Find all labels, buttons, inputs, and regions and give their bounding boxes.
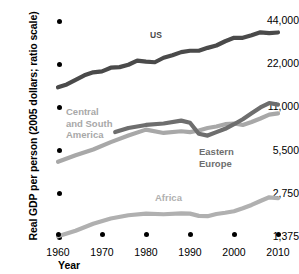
x-tick-label: 1970 xyxy=(82,246,122,258)
gdp-per-person-chart: Real GDP per person (2005 dollars; ratio… xyxy=(0,0,299,274)
x-tick-dot xyxy=(232,232,237,237)
series-label-eastern-europe: Eastern Europe xyxy=(199,146,234,169)
x-tick-dot xyxy=(188,232,193,237)
series-label-central-and-south-america: Central and South America xyxy=(66,106,112,141)
x-tick-label: 1990 xyxy=(170,246,210,258)
x-tick-label: 1960 xyxy=(38,246,78,258)
x-tick-dot xyxy=(276,232,281,237)
x-axis-title: Year xyxy=(58,259,80,271)
series-label-africa: Africa xyxy=(155,192,182,204)
series-label-us: US xyxy=(150,30,162,42)
x-tick-dot xyxy=(56,232,61,237)
x-tick-dot xyxy=(100,232,105,237)
x-tick-label: 1980 xyxy=(126,246,166,258)
x-tick-label: 2010 xyxy=(258,246,298,258)
x-tick-dot xyxy=(144,232,149,237)
x-tick-label: 2000 xyxy=(214,246,254,258)
series-line-us xyxy=(58,32,278,87)
